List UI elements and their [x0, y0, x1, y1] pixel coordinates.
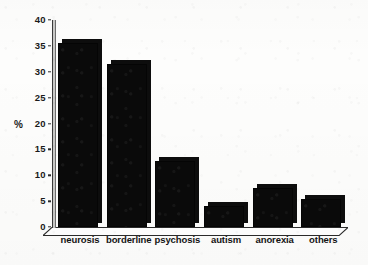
plot-area: 0510152025303540	[52, 20, 344, 227]
bars-layer	[52, 20, 344, 227]
bar-front-face	[253, 188, 293, 227]
bar-front-face	[204, 206, 244, 227]
x-axis-label-autism: autism	[211, 233, 241, 246]
y-axis-tick-label: 25	[35, 93, 46, 103]
x-axis-label-psychosis: psychosis	[155, 233, 201, 246]
bar-autism	[204, 202, 244, 227]
x-axis-labels: neurosisborderlinepsychosisautismanorexi…	[52, 233, 344, 249]
x-axis-label-others: others	[309, 233, 337, 246]
y-axis-tick-mark	[48, 45, 51, 46]
bar-anorexia	[253, 184, 293, 227]
bar-front-face	[155, 161, 195, 227]
bar-others	[301, 195, 341, 227]
x-axis-label-borderline: borderline	[106, 233, 151, 246]
y-axis-line	[52, 20, 56, 228]
y-axis-tick-mark	[48, 97, 51, 98]
bar-front-face	[301, 199, 341, 227]
bar-borderline	[107, 60, 147, 227]
y-axis-tick-mark	[48, 175, 51, 176]
y-axis-tick-label: 35	[35, 41, 46, 51]
y-axis-tick-label: 40	[35, 15, 46, 25]
bar-neurosis	[58, 39, 98, 227]
x-axis-label-anorexia: anorexia	[256, 233, 294, 246]
bar-psychosis	[155, 157, 195, 227]
bar-chart-figure: 0510152025303540 % neurosisborderlinepsy…	[0, 0, 368, 265]
y-axis-tick-label: 10	[35, 171, 46, 181]
y-axis-tick-mark	[48, 149, 51, 150]
y-axis-tick-label: 20	[35, 119, 46, 129]
y-axis-tick-mark	[48, 19, 51, 20]
y-axis-tick-label: 15	[35, 145, 46, 155]
y-axis-tick-label: 30	[35, 67, 46, 77]
y-axis-title: %	[14, 120, 23, 130]
bar-front-face	[107, 64, 147, 227]
y-axis-tick-mark	[48, 71, 51, 72]
bar-front-face	[58, 43, 98, 227]
x-axis-label-neurosis: neurosis	[61, 233, 100, 246]
y-axis-tick-mark	[48, 200, 51, 201]
y-axis-tick-label: 5	[40, 196, 46, 206]
y-axis-tick-mark	[48, 123, 51, 124]
